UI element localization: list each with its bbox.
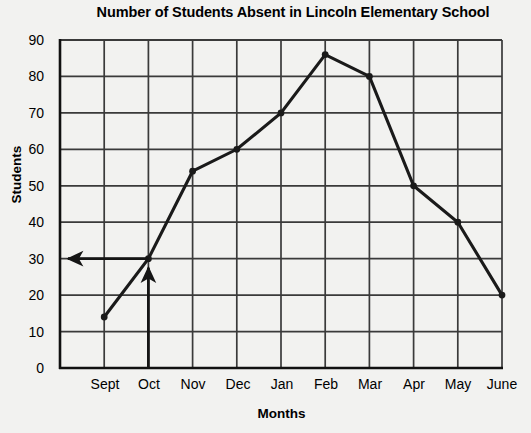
plot-area (0, 0, 531, 433)
line-chart: Number of Students Absent in Lincoln Ele… (0, 0, 531, 433)
